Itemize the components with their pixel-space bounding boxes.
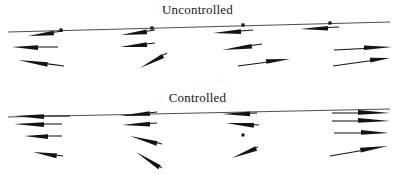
vector-arrow (332, 110, 390, 115)
vector-shaft (57, 155, 63, 156)
vector-arrowhead (232, 146, 257, 158)
vector-arrow (33, 152, 63, 158)
vector-arrowhead (24, 134, 48, 139)
vector-shaft (333, 61, 370, 66)
vector-shaft (328, 27, 339, 28)
vector-arrow (18, 60, 64, 67)
vector-shaft (241, 30, 253, 31)
vector-shaft (147, 30, 155, 31)
vector-shaft (147, 43, 155, 44)
stray-point (242, 134, 245, 137)
vector-arrow (213, 29, 253, 34)
vector-arrow (12, 45, 58, 50)
vector-arrow (334, 130, 389, 135)
vector-arrowhead (213, 29, 241, 34)
vector-arrow (136, 152, 162, 169)
panel-controlled: Controlled (0, 88, 395, 175)
vector-arrow (334, 45, 392, 50)
vector-arrowhead (266, 59, 290, 64)
vector-arrowhead (358, 110, 390, 115)
vector-shaft (238, 62, 266, 66)
vector-shaft (150, 112, 157, 113)
vector-arrow (14, 114, 70, 119)
vector-arrow (120, 42, 155, 47)
vector-arrowhead (120, 111, 150, 116)
vector-arrowhead (121, 30, 147, 35)
vector-arrowhead (222, 44, 252, 50)
panel-uncontrolled: Uncontrolled (0, 0, 395, 88)
vector-shaft (256, 147, 258, 148)
vector-arrow (24, 134, 62, 139)
vector-field-controlled (0, 88, 395, 175)
vector-arrowhead (136, 152, 161, 169)
vector-arrow (238, 59, 290, 66)
vector-arrowhead (226, 123, 254, 128)
vector-arrowhead (358, 118, 390, 123)
vector-arrowhead (360, 146, 388, 152)
vector-field-uncontrolled (0, 0, 395, 88)
vector-arrow (121, 30, 155, 35)
vector-shaft (252, 44, 262, 46)
vector-arrowhead (12, 45, 38, 50)
vector-arrow (14, 122, 62, 127)
vector-shaft (334, 48, 364, 50)
station-node-dot (241, 23, 244, 26)
vector-arrowhead (122, 122, 150, 127)
station-node-dot (150, 26, 153, 29)
vector-arrowhead (364, 45, 392, 50)
vector-arrowhead (14, 122, 44, 127)
vector-arrow (140, 53, 167, 68)
vector-arrow (333, 58, 390, 66)
vector-arrowhead (300, 26, 328, 31)
vector-arrowhead (120, 42, 147, 47)
vector-shaft (48, 64, 64, 66)
figure-root: Uncontrolled Controlled (0, 0, 395, 175)
vector-shaft (163, 53, 167, 55)
vector-arrowhead (361, 130, 389, 135)
vector-arrow (226, 123, 259, 128)
vector-arrowhead (33, 152, 57, 158)
vector-arrowhead (18, 60, 48, 67)
vector-arrow (300, 26, 339, 31)
vector-arrow (222, 44, 262, 50)
vector-shaft (160, 167, 162, 168)
vector-arrow (122, 122, 157, 127)
vector-arrow (330, 146, 388, 156)
vector-arrowhead (370, 58, 390, 63)
vector-arrow (130, 136, 162, 146)
vector-arrowhead (130, 136, 158, 146)
vector-shaft (330, 151, 360, 156)
vector-arrow (232, 146, 258, 158)
station-node-dot (328, 21, 331, 24)
vector-shaft (157, 143, 162, 144)
vector-arrow (332, 118, 390, 123)
vector-arrowhead (140, 54, 164, 68)
